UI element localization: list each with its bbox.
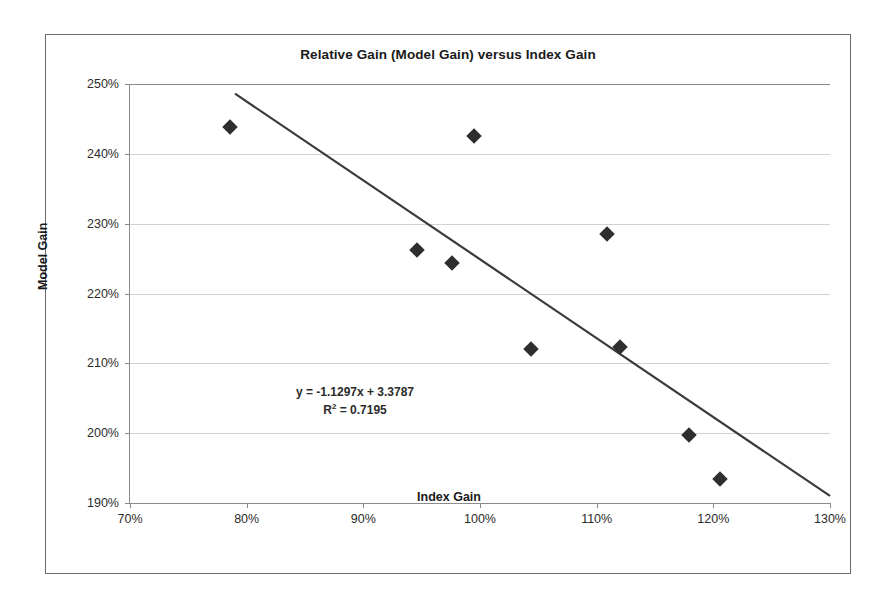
y-tick-label: 250%: [59, 77, 119, 91]
y-tick-label: 200%: [59, 426, 119, 440]
x-tick-label: 130%: [800, 512, 860, 526]
x-tick-label: 70%: [100, 512, 160, 526]
x-tick-label: 100%: [450, 512, 510, 526]
y-tick-label: 240%: [59, 147, 119, 161]
r-squared-value: R2 = 0.7195: [250, 401, 460, 419]
trendline: [130, 84, 830, 503]
regression-annotation: y = -1.1297x + 3.3787 R2 = 0.7195: [250, 384, 460, 420]
y-tick-label: 230%: [59, 217, 119, 231]
chart-title: Relative Gain (Model Gain) versus Index …: [46, 47, 850, 62]
y-tick-label: 210%: [59, 356, 119, 370]
plot-area: 190%200%210%220%230%240%250% 70%80%90%10…: [129, 84, 830, 504]
y-axis-title: Model Gain: [36, 223, 50, 290]
r-squared-label: R: [323, 403, 332, 417]
x-axis-title: Index Gain: [46, 490, 852, 504]
y-tick-label: 220%: [59, 287, 119, 301]
regression-equation: y = -1.1297x + 3.3787: [250, 384, 460, 401]
x-tick-label: 120%: [683, 512, 743, 526]
chart-container: Relative Gain (Model Gain) versus Index …: [45, 34, 851, 574]
trendline-segment: [235, 94, 830, 496]
x-tick-label: 90%: [333, 512, 393, 526]
x-tick-label: 110%: [567, 512, 627, 526]
x-tick-label: 80%: [217, 512, 277, 526]
r-squared-number: = 0.7195: [336, 403, 386, 417]
